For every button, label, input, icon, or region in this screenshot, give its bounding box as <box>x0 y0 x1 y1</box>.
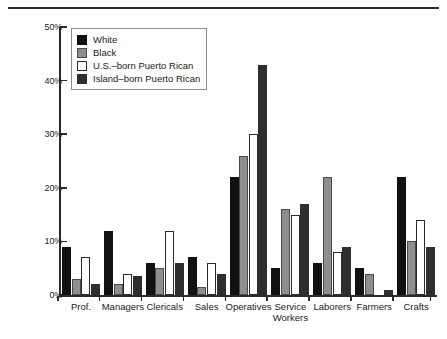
bar <box>407 241 416 295</box>
legend-item: Island–born Puerto Rican <box>77 72 201 85</box>
bar <box>175 263 184 295</box>
legend-swatch-white-icon <box>77 35 87 45</box>
x-axis-category-label: Farmers <box>356 302 391 313</box>
bar <box>146 263 155 295</box>
legend-item: Black <box>77 46 201 59</box>
bar <box>281 209 290 295</box>
x-axis-line <box>59 295 437 297</box>
legend-swatch-black-icon <box>77 48 87 58</box>
x-axis-tick <box>183 296 185 301</box>
bar <box>333 252 342 295</box>
x-axis-tick <box>57 296 59 301</box>
x-axis-category-label: Service Workers <box>273 302 308 323</box>
bar <box>416 220 425 295</box>
bar <box>114 284 123 295</box>
bar <box>91 284 100 295</box>
x-axis-tick <box>99 296 101 301</box>
y-axis-line <box>59 27 61 296</box>
x-axis-tick <box>430 296 432 301</box>
bar <box>165 231 174 295</box>
x-axis-category-label: Operatives <box>226 302 272 313</box>
bar <box>62 247 71 295</box>
bar <box>355 268 364 295</box>
x-axis-category-label: Crafts <box>403 302 428 313</box>
y-axis-tick-label: 20% <box>28 183 62 193</box>
x-axis-category-label: Clericals <box>147 302 183 313</box>
bar <box>384 290 393 295</box>
legend-label: Island–born Puerto Rican <box>93 73 200 84</box>
bar <box>313 263 322 295</box>
y-axis-tick-label: 30% <box>28 129 62 139</box>
header-rule <box>8 7 439 9</box>
bar <box>426 247 435 295</box>
bar <box>323 177 332 295</box>
bar <box>230 177 239 295</box>
legend-item: U.S.–born Puerto Rican <box>77 59 201 72</box>
bar <box>365 274 374 295</box>
x-axis-tick <box>308 296 310 301</box>
bar <box>188 257 197 295</box>
bar <box>397 177 406 295</box>
bar <box>81 257 90 295</box>
chart-figure: 0%10%20%30%40%50% Prof.ManagersClericals… <box>0 0 447 339</box>
bar <box>217 274 226 295</box>
x-axis-category-label: Prof. <box>71 302 91 313</box>
bar <box>249 134 258 295</box>
bar <box>342 247 351 295</box>
x-axis-category-label: Managers <box>102 302 144 313</box>
bar <box>72 279 81 295</box>
y-axis-tick-label: 10% <box>28 236 62 246</box>
bar <box>300 204 309 295</box>
legend-item: White <box>77 33 201 46</box>
bar <box>258 65 267 295</box>
bar <box>271 268 280 295</box>
bar <box>207 263 216 295</box>
bar <box>291 215 300 295</box>
legend-label: U.S.–born Puerto Rican <box>93 60 193 71</box>
chart-legend: White Black U.S.–born Puerto Rican Islan… <box>71 28 207 90</box>
bar <box>133 276 142 295</box>
y-axis-tick-label: 40% <box>28 76 62 86</box>
legend-label: Black <box>93 47 116 58</box>
legend-swatch-us-born-puerto-rican-icon <box>77 61 87 71</box>
y-axis-tick-label: 50% <box>28 22 62 32</box>
x-axis-category-label: Sales <box>195 302 219 313</box>
bar <box>197 287 206 295</box>
x-axis-tick <box>392 296 394 301</box>
legend-swatch-island-born-puerto-rican-icon <box>77 74 87 84</box>
bar <box>155 268 164 295</box>
bar <box>123 274 132 295</box>
legend-label: White <box>93 34 117 45</box>
bar <box>104 231 113 295</box>
bar <box>239 156 248 295</box>
x-axis-category-label: Laborers <box>314 302 352 313</box>
